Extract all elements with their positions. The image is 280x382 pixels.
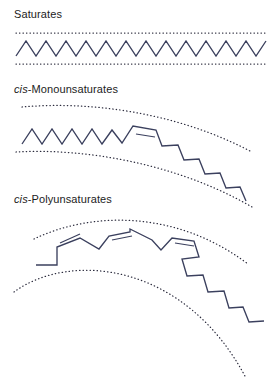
label-text: -Monounsaturates: [28, 83, 119, 95]
panel-label-saturates: Saturates: [14, 8, 62, 20]
panel-label-cis-polyunsaturates: cis-Polyunsaturates: [14, 193, 112, 205]
label-italic-prefix: cis: [14, 83, 28, 95]
label-italic-prefix: cis: [14, 193, 28, 205]
label-text: -Polyunsaturates: [28, 193, 113, 205]
fatty-acid-diagram: Saturates cis-Monounsaturates cis-Polyun…: [0, 0, 280, 382]
diagram-background: [0, 0, 280, 382]
label-text: Saturates: [14, 8, 62, 20]
panel-label-cis-monounsaturates: cis-Monounsaturates: [14, 83, 118, 95]
